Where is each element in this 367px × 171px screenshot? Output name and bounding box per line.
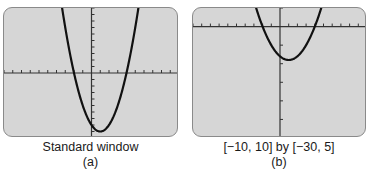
caption-b: [−10, 10] by [−30, 5] [192, 140, 366, 154]
graph-plot-a [4, 8, 178, 137]
calculator-screen-b [192, 7, 366, 137]
calculator-screen-a [3, 7, 178, 137]
panel-label-b: (b) [192, 155, 366, 169]
panel-label-a: (a) [3, 155, 178, 169]
caption-a: Standard window [3, 140, 178, 154]
graph-plot-b [193, 8, 366, 137]
